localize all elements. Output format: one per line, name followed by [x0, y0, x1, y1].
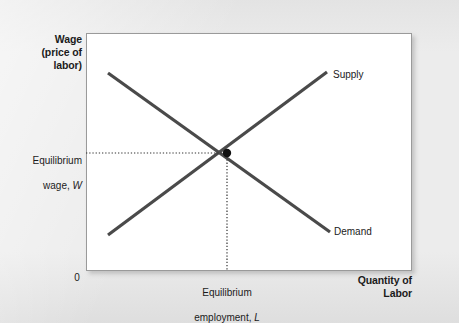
equilibrium-wage-line-1: Equilibrium	[33, 155, 82, 166]
equilibrium-employment-label: Equilibrium employment, L	[157, 274, 297, 323]
equilibrium-employment-line-1: Equilibrium	[202, 287, 251, 298]
equilibrium-wage-line-2-prefix: wage,	[43, 180, 72, 191]
x-axis-title: Quantity of Labor	[292, 274, 412, 300]
equilibrium-employment-symbol: L	[254, 312, 260, 323]
y-axis-title: Wage (price of labor)	[0, 33, 82, 72]
equilibrium-point-marker	[223, 149, 231, 157]
equilibrium-wage-symbol: W	[73, 180, 82, 191]
equilibrium-wage-label: Equilibrium wage, W	[0, 142, 82, 192]
demand-curve-label: Demand	[334, 226, 372, 239]
labor-market-supply-demand-figure: Wage (price of labor) Equilibrium wage, …	[0, 0, 459, 323]
origin-label: 0	[70, 272, 84, 285]
equilibrium-employment-line-2-prefix: employment,	[194, 312, 254, 323]
supply-curve-label: Supply	[333, 69, 364, 82]
